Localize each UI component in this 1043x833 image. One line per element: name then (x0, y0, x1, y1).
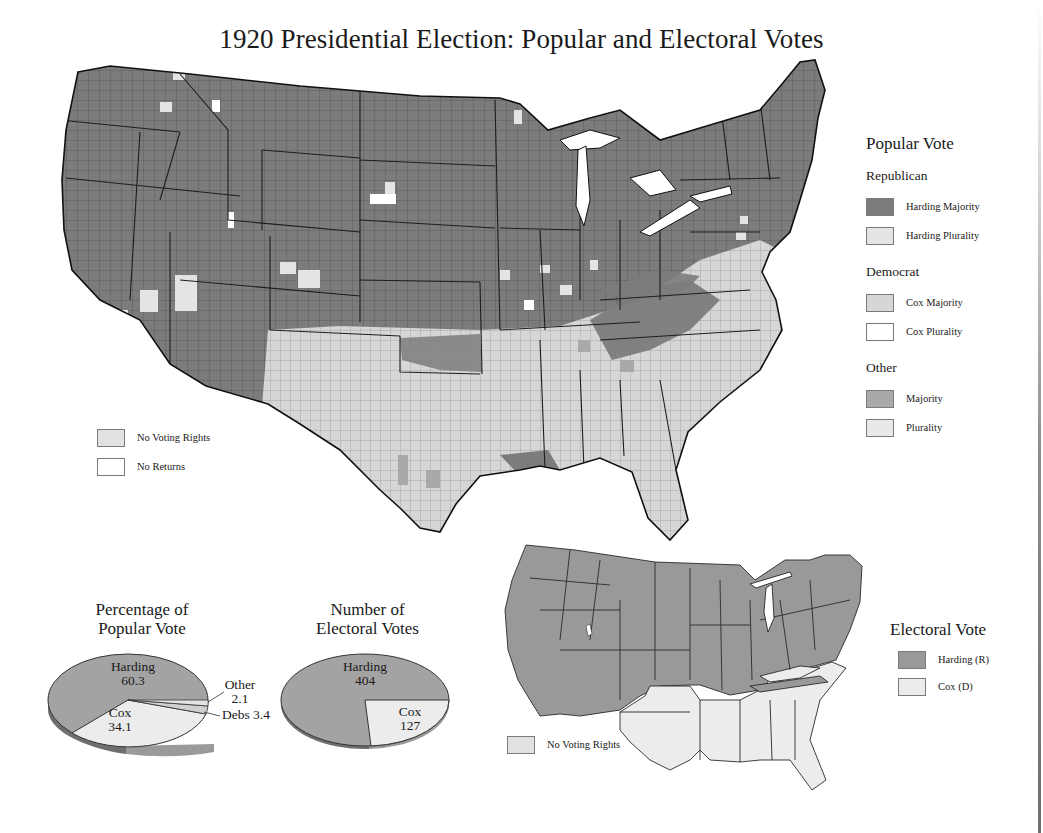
electoral-vote-map (490, 530, 880, 800)
swatch-harding-plurality (866, 227, 894, 245)
swatch-harding-r (898, 651, 926, 669)
popular-pie-title-line2: Popular Vote (42, 619, 242, 638)
popular-pie-cox-label: Cox 34.1 (95, 706, 145, 734)
swatch-cox-majority (866, 294, 894, 312)
swatch-harding-majority (866, 198, 894, 216)
swatch-no-voting-rights (97, 429, 125, 447)
legend-item-cox-plurality: Cox Plurality (866, 317, 980, 346)
electoral-pie-title-line1: Number of (280, 600, 455, 619)
swatch-cox-plurality (866, 323, 894, 341)
legend-item-cox-d: Cox (D) (898, 673, 989, 700)
legend-item-cox-majority: Cox Majority (866, 288, 980, 317)
swatch-other-plurality (866, 419, 894, 437)
legend-group-republican: Republican (866, 168, 980, 184)
main-map-legend: No Voting Rights No Returns (97, 423, 210, 481)
electoral-vote-pie-chart: Number of Electoral Votes (280, 600, 455, 638)
legend-group-other: Other (866, 360, 980, 376)
legend-item-no-voting-rights-small: No Voting Rights (507, 730, 620, 759)
legend-item-harding-majority: Harding Majority (866, 192, 980, 221)
legend-item-no-voting-rights: No Voting Rights (97, 423, 210, 452)
swatch-cox-d (898, 678, 926, 696)
small-map-legend: No Voting Rights (507, 730, 620, 759)
electoral-pie-cox-label: Cox 127 (385, 705, 435, 733)
legend-item-no-returns: No Returns (97, 452, 210, 481)
popular-vote-legend-title: Popular Vote (866, 134, 980, 154)
popular-pie-other-label: Other 2.1 (220, 678, 260, 706)
legend-item-harding-plurality: Harding Plurality (866, 221, 980, 250)
legend-item-harding-r: Harding (R) (898, 646, 989, 673)
legend-group-democrat: Democrat (866, 264, 980, 280)
swatch-no-voting-rights-small (507, 736, 535, 754)
popular-pie-harding-label: Harding 60.3 (98, 660, 168, 688)
popular-vote-legend: Popular Vote Republican Harding Majority… (866, 134, 980, 442)
electoral-pie-title-line2: Electoral Votes (280, 619, 455, 638)
swatch-other-majority (866, 390, 894, 408)
electoral-pie-harding-label: Harding 404 (330, 660, 400, 688)
popular-pie-title-line1: Percentage of (42, 600, 242, 619)
electoral-vote-legend-title: Electoral Vote (890, 620, 989, 640)
electoral-vote-legend: Electoral Vote Harding (R) Cox (D) (890, 620, 989, 700)
legend-item-other-plurality: Plurality (866, 413, 980, 442)
legend-item-other-majority: Majority (866, 384, 980, 413)
swatch-no-returns (97, 458, 125, 476)
popular-vote-pie-chart: Percentage of Popular Vote (42, 600, 242, 638)
